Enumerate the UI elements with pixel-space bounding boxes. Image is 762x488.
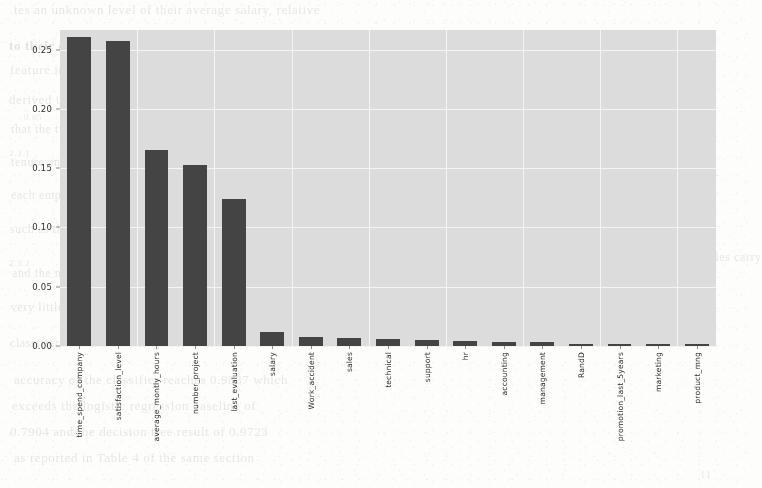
- x-tick-mark: [311, 346, 312, 349]
- bar-series: [60, 30, 716, 346]
- bar: [222, 199, 246, 346]
- bar: [260, 332, 284, 346]
- x-tick-label: sales: [345, 352, 354, 372]
- x-tick-mark: [658, 346, 659, 349]
- y-tick-label: 0.10: [32, 222, 52, 232]
- x-tick-mark: [427, 346, 428, 349]
- x-tick-label: Work_accident: [307, 352, 316, 409]
- bar: [299, 337, 323, 346]
- x-tick-label: management: [538, 352, 547, 404]
- y-tick-label: 0.05: [32, 282, 52, 292]
- x-tick-mark: [542, 346, 543, 349]
- x-tick-mark: [504, 346, 505, 349]
- x-tick-mark: [234, 346, 235, 349]
- x-tick-label: last_evaluation: [230, 352, 239, 412]
- x-tick-label: product_mng: [693, 352, 702, 404]
- x-tick-mark: [118, 346, 119, 349]
- x-tick-mark: [79, 346, 80, 349]
- x-tick-label: promotion_last_5years: [616, 352, 625, 441]
- x-tick-label: average_montly_hours: [152, 352, 161, 441]
- bar: [145, 150, 169, 346]
- x-tick-label: number_project: [191, 352, 200, 414]
- x-tick-mark: [620, 346, 621, 349]
- x-tick-mark: [195, 346, 196, 349]
- bar: [337, 338, 361, 346]
- x-tick-label: time_spend_company: [75, 352, 84, 438]
- plot-area: [60, 30, 716, 346]
- x-tick-mark: [581, 346, 582, 349]
- x-tick-label: hr: [461, 352, 470, 360]
- x-tick-label: satisfaction_level: [114, 352, 123, 420]
- x-tick-mark: [697, 346, 698, 349]
- x-tick-label: marketing: [654, 352, 663, 392]
- x-tick-label: technical: [384, 352, 393, 388]
- bar: [106, 41, 130, 346]
- bar: [376, 339, 400, 346]
- y-axis: 0.000.050.100.150.200.25: [0, 30, 60, 346]
- bar: [183, 165, 207, 346]
- x-tick-label: support: [423, 352, 432, 382]
- x-tick-mark: [272, 346, 273, 349]
- x-tick-label: salary: [268, 352, 277, 376]
- x-axis: time_spend_companysatisfaction_levelaver…: [60, 346, 716, 488]
- x-tick-mark: [388, 346, 389, 349]
- x-tick-mark: [465, 346, 466, 349]
- x-tick-label: RandD: [577, 352, 586, 378]
- x-tick-label: accounting: [500, 352, 509, 396]
- bar: [67, 37, 91, 346]
- x-tick-mark: [156, 346, 157, 349]
- y-tick-label: 0.00: [32, 341, 52, 351]
- y-tick-label: 0.25: [32, 45, 52, 55]
- y-tick-label: 0.20: [32, 104, 52, 114]
- x-tick-mark: [349, 346, 350, 349]
- y-tick-label: 0.15: [32, 163, 52, 173]
